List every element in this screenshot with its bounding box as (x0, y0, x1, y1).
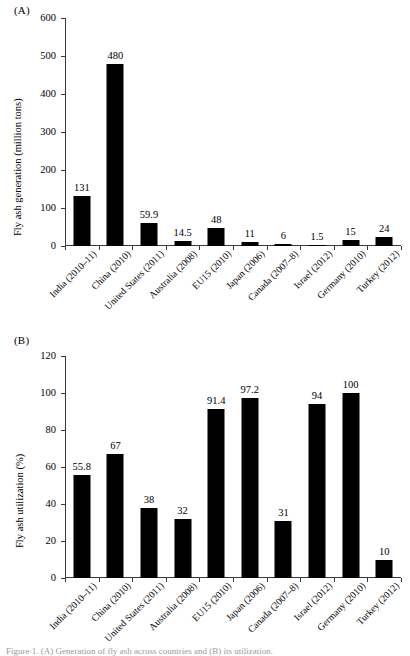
bar[interactable] (140, 223, 157, 246)
x-tick (199, 578, 200, 582)
y-tick-label: 40 (46, 497, 57, 510)
bar-value-label: 480 (108, 50, 124, 62)
bar-value-label: 100 (343, 379, 359, 391)
bar[interactable] (73, 196, 90, 246)
bar-group[interactable]: 32 (166, 356, 200, 578)
bar[interactable] (140, 508, 157, 578)
x-tick (401, 578, 402, 582)
y-tick-label: 100 (40, 386, 56, 399)
panel-a-y-axis-label: Fly ash generation (million tons) (12, 98, 23, 236)
y-tick-label: 500 (40, 49, 56, 62)
bar-value-label: 97.2 (241, 384, 259, 396)
y-tick-label: 120 (40, 349, 56, 362)
bar-value-label: 14.5 (173, 227, 191, 239)
bar-group[interactable]: 97.2 (233, 356, 267, 578)
bar[interactable] (107, 454, 124, 578)
x-tick (166, 578, 167, 582)
panel-b-label: (B) (14, 334, 29, 346)
bar-value-label: 38 (144, 494, 155, 506)
x-tick (367, 246, 368, 250)
panel-a-plot-area: 0100200300400500600 13148059.914.5481161… (65, 18, 401, 246)
y-tick-label: 0 (51, 239, 56, 252)
x-tick (367, 578, 368, 582)
y-tick-label: 300 (40, 125, 56, 138)
bar[interactable] (308, 404, 325, 578)
bar[interactable] (241, 242, 258, 246)
x-tick (334, 246, 335, 250)
x-tick (99, 246, 100, 250)
bar[interactable] (107, 64, 124, 246)
x-tick-label: India (2010–11) (47, 580, 98, 631)
x-tick (65, 578, 66, 582)
bar[interactable] (73, 475, 90, 578)
bar-value-label: 11 (245, 228, 255, 240)
bar-group[interactable]: 480 (99, 18, 133, 246)
panel-a-label: (A) (14, 4, 30, 16)
bar[interactable] (241, 398, 258, 578)
bar-value-label: 59.9 (140, 209, 158, 221)
bar-group[interactable]: 11 (233, 18, 267, 246)
y-tick-label: 0 (51, 571, 56, 584)
y-tick-label: 200 (40, 163, 56, 176)
bar[interactable] (174, 519, 191, 578)
bar[interactable] (342, 393, 359, 578)
bar-group[interactable]: 38 (132, 356, 166, 578)
bar[interactable] (308, 245, 325, 246)
x-tick (199, 246, 200, 250)
bar-group[interactable]: 1.5 (300, 18, 334, 246)
bar-value-label: 1.5 (310, 231, 323, 243)
x-tick (132, 578, 133, 582)
bar-group[interactable]: 91.4 (199, 356, 233, 578)
bar-value-label: 15 (345, 226, 356, 238)
bar-group[interactable]: 59.9 (132, 18, 166, 246)
bar[interactable] (208, 228, 225, 246)
bar-group[interactable]: 100 (334, 356, 368, 578)
y-tick-label: 60 (46, 460, 57, 473)
bar-value-label: 91.4 (207, 395, 225, 407)
x-tick-label: United States (2011) (102, 580, 166, 644)
bar-value-label: 6 (281, 230, 286, 242)
bar-group[interactable]: 55.8 (65, 356, 99, 578)
bar[interactable] (376, 560, 393, 579)
x-tick (334, 578, 335, 582)
bar[interactable] (342, 240, 359, 246)
bar[interactable] (275, 521, 292, 578)
bar-group[interactable]: 31 (267, 356, 301, 578)
x-tick (65, 246, 66, 250)
figure-container: (A) Fly ash generation (million tons) 01… (0, 0, 410, 656)
x-tick (300, 578, 301, 582)
x-tick (99, 578, 100, 582)
bar-group[interactable]: 6 (267, 18, 301, 246)
bar-group[interactable]: 14.5 (166, 18, 200, 246)
panel-a-bars: 13148059.914.5481161.51524 (65, 18, 401, 246)
y-tick-label: 600 (40, 11, 56, 24)
bar-value-label: 67 (110, 440, 121, 452)
bar-group[interactable]: 24 (367, 18, 401, 246)
bar-group[interactable]: 15 (334, 18, 368, 246)
y-tick-label: 20 (46, 534, 57, 547)
bar-value-label: 131 (74, 182, 90, 194)
bar-value-label: 48 (211, 214, 222, 226)
bar-group[interactable]: 10 (367, 356, 401, 578)
y-tick-label: 100 (40, 201, 56, 214)
bar[interactable] (174, 241, 191, 247)
x-tick (233, 246, 234, 250)
bar-group[interactable]: 131 (65, 18, 99, 246)
x-tick (267, 578, 268, 582)
panel-b-y-axis-label: Fly ash utilization (%) (14, 454, 25, 548)
x-tick (166, 246, 167, 250)
bar[interactable] (376, 237, 393, 246)
bar[interactable] (275, 244, 292, 246)
bar-value-label: 94 (312, 390, 323, 402)
x-tick (132, 246, 133, 250)
x-tick (300, 246, 301, 250)
bar-group[interactable]: 48 (199, 18, 233, 246)
bar[interactable] (208, 409, 225, 578)
x-tick-label: United States (2011) (102, 248, 166, 312)
figure-caption: Figure 1. (A) Generation of fly ash acro… (6, 646, 406, 656)
bar-group[interactable]: 94 (300, 356, 334, 578)
y-tick-label: 80 (46, 423, 57, 436)
bar-group[interactable]: 67 (99, 356, 133, 578)
panel-b-plot-area: 020406080100120 55.867383291.497.2319410… (65, 356, 401, 578)
bar-value-label: 55.8 (73, 461, 91, 473)
